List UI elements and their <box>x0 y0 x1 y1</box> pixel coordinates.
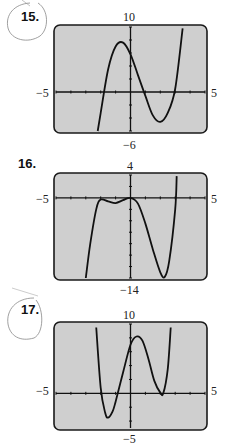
graph-17 <box>0 0 228 444</box>
